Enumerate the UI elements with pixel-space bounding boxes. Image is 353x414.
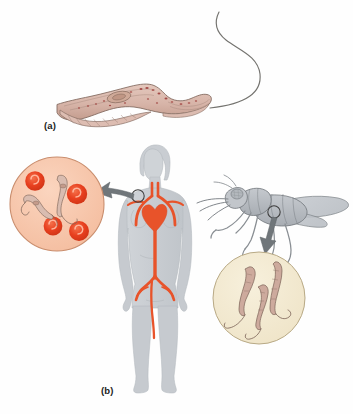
left-leg: [132, 306, 152, 393]
panel-label-a: (a): [44, 120, 56, 131]
fly-gut-inset: [213, 252, 305, 344]
face: [144, 149, 163, 181]
figure-container: (a) (b): [0, 0, 353, 414]
illustration-svg: [0, 0, 353, 414]
red-blood-cell: [25, 171, 45, 191]
fly-proboscis: [197, 199, 230, 220]
red-blood-cell: [67, 184, 87, 204]
human-blood-inset: [10, 157, 104, 251]
panel-label-b: (b): [101, 385, 114, 396]
flagellum-path: [210, 12, 260, 108]
right-leg: [158, 306, 178, 393]
fly-antennae: [214, 175, 236, 188]
gut-inset-circle: [213, 252, 305, 344]
red-blood-cell: [44, 217, 63, 236]
human-figure: [118, 145, 192, 393]
panel-a-trypanosome: [57, 12, 260, 127]
fly-eye: [231, 189, 243, 199]
